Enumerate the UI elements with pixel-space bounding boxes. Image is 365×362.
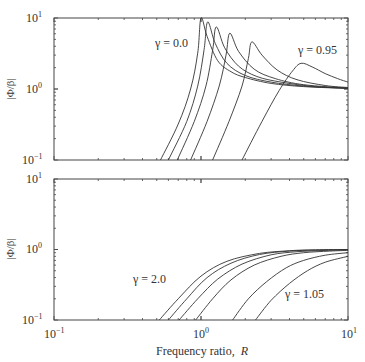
top-axis-ticks xyxy=(54,18,348,160)
curve-1.25 xyxy=(196,250,348,320)
bottom-curves xyxy=(159,250,348,321)
xtick-10e0: 100 xyxy=(193,326,209,341)
bottom-ytick-10e0: 100 xyxy=(26,241,42,256)
xtick-10e-1: 10−1 xyxy=(44,326,65,341)
top-annotation-gamma-095: γ = 0.95 xyxy=(297,43,337,57)
curve-1.6 xyxy=(168,250,348,321)
top-ylabel: |Φ/β| xyxy=(4,78,16,99)
bottom-ytick-10e1: 101 xyxy=(26,171,42,186)
top-ytick-10e1: 101 xyxy=(26,10,42,25)
bottom-ytick-10e-1: 10−1 xyxy=(22,312,43,327)
top-plot-frame xyxy=(54,18,348,160)
xtick-10e1: 101 xyxy=(341,326,357,341)
top-annotation-gamma-0: γ = 0.0 xyxy=(154,36,188,50)
top-curves xyxy=(161,18,349,160)
chart-figure: 101 100 10−1 |Φ/β| γ = 0.0 γ = 0.95 101 … xyxy=(0,0,365,362)
x-axis-label: Frequency ratio,R xyxy=(156,344,249,358)
top-ytick-10e-1: 10−1 xyxy=(22,152,43,167)
top-panel: 101 100 10−1 |Φ/β| γ = 0.0 γ = 0.95 xyxy=(4,10,348,167)
bottom-ylabel: |Φ/β| xyxy=(4,238,16,259)
bottom-annotation-gamma-105: γ = 1.05 xyxy=(284,287,324,301)
bottom-panel: 101 100 10−1 |Φ/β| γ = 2.0 γ = 1.05 xyxy=(4,171,348,327)
curve-0.95 xyxy=(242,63,348,160)
top-ytick-10e0: 100 xyxy=(26,81,42,96)
bottom-annotation-gamma-2: γ = 2.0 xyxy=(132,272,166,286)
curve-0.0 xyxy=(161,18,349,160)
